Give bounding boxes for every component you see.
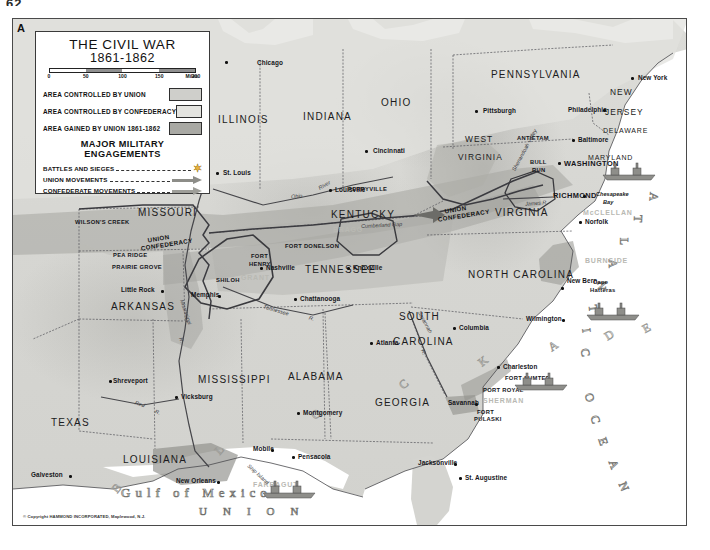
legend-row-union-movements: UNION MOVEMENTS: [43, 174, 202, 185]
legend-area-label: AREA CONTROLLED BY UNION: [43, 91, 146, 98]
legend-swatch-gained: [169, 122, 202, 135]
city-dot: [561, 287, 564, 290]
city-dot: [459, 477, 462, 480]
union-gulf-label: UNION: [199, 505, 314, 517]
blockade-char: D: [602, 327, 617, 344]
city-dot: [294, 298, 297, 301]
legend-subtitle: 1861-1862: [43, 51, 202, 65]
legend-area-rows: AREA CONTROLLED BY UNIONAREA CONTROLLED …: [43, 87, 202, 135]
city-dot: [109, 380, 112, 383]
legend-area-row: AREA CONTROLLED BY CONFEDERACY: [43, 104, 202, 118]
confederate-arrow-icon: [172, 187, 202, 195]
city-dot: [217, 481, 220, 484]
city-dot: [365, 150, 368, 153]
plate-corner-label: A: [17, 22, 25, 34]
map-page: 62: [0, 0, 710, 550]
leader-dots: [110, 176, 170, 182]
legend-row-confederate-movements: CONFEDERATE MOVEMENTS: [43, 185, 202, 196]
legend-area-row: AREA CONTROLLED BY UNION: [43, 87, 202, 101]
city-dot: [562, 319, 565, 322]
city-dot: [579, 221, 582, 224]
city-dot: [297, 412, 300, 415]
leader-dots: [137, 187, 170, 193]
blockade-ship-icon: [585, 301, 641, 321]
city-dot: [216, 172, 219, 175]
scale-bar: 050100150200Miles: [49, 68, 196, 82]
city-dot: [69, 475, 72, 478]
map-legend: THE CIVIL WAR 1861-1862 050100150200Mile…: [35, 31, 210, 194]
scale-tick: 150: [155, 73, 163, 79]
map-plate: ATLANTICOCEAN BLOCKADE Gulf of Mexico UN…: [12, 18, 687, 526]
legend-area-label: AREA GAINED BY UNION 1861-1862: [43, 125, 160, 132]
city-dot: [329, 189, 332, 192]
city-dot: [175, 396, 178, 399]
city-dot: [453, 327, 456, 330]
blockade-char: K: [476, 353, 492, 370]
legend-swatch-confed: [176, 105, 202, 118]
scale-tick: 100: [118, 73, 126, 79]
gulf-of-mexico-label: Gulf of Mexico: [121, 485, 272, 501]
city-dot: [558, 162, 561, 165]
city-dot: [218, 295, 221, 298]
legend-union-movements-label: UNION MOVEMENTS: [43, 176, 108, 183]
city-dot: [260, 267, 263, 270]
city-dot: [631, 77, 634, 80]
scale-tick: 50: [83, 73, 89, 79]
city-dot: [475, 110, 478, 113]
blockade-char: C: [396, 377, 412, 394]
star-icon: ✶: [193, 163, 202, 174]
page-number: 62: [6, 0, 22, 6]
city-dot: [271, 449, 274, 452]
union-arrow-icon: [172, 176, 202, 184]
city-dot: [161, 290, 164, 293]
legend-area-row: AREA GAINED BY UNION 1861-1862: [43, 121, 202, 135]
scale-tick: 0: [48, 73, 51, 79]
copyright-notice: © Copyright HAMMOND INCORPORATED, Maplew…: [23, 514, 145, 519]
legend-confederate-movements-label: CONFEDERATE MOVEMENTS: [43, 187, 135, 194]
blockade-char: A: [545, 337, 561, 354]
blockade-char: L: [212, 442, 228, 457]
city-dot: [454, 463, 457, 466]
blockade-ship-icon: [601, 161, 657, 181]
city-dot: [370, 342, 373, 345]
city-dot: [225, 61, 228, 64]
blockade-ship-icon: [261, 479, 317, 499]
legend-engagements-title: MAJOR MILITARY ENGAGEMENTS: [43, 139, 202, 159]
city-dot: [603, 109, 606, 112]
legend-area-label: AREA CONTROLLED BY CONFEDERACY: [43, 108, 176, 115]
city-dot: [583, 195, 586, 198]
legend-title: THE CIVIL WAR: [43, 38, 202, 52]
legend-swatch-union: [169, 88, 202, 101]
blockade-char: O: [308, 406, 325, 423]
scale-unit: Miles: [185, 73, 198, 79]
city-dot: [347, 267, 350, 270]
blockade-char: E: [640, 320, 654, 337]
blockade-ship-icon: [513, 371, 569, 391]
leader-dots: [116, 165, 190, 171]
scale-tick-labels: 050100150200Miles: [49, 73, 196, 82]
city-dot: [475, 403, 478, 406]
city-dot: [572, 139, 575, 142]
legend-row-battles: BATTLES AND SIEGES ✶: [43, 163, 202, 174]
city-dot: [292, 456, 295, 459]
city-dot: [497, 366, 500, 369]
legend-battles-label: BATTLES AND SIEGES: [43, 165, 114, 172]
